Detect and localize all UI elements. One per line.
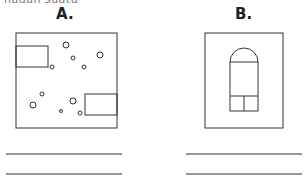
circle [71,56,75,60]
diagram-canvas [0,0,305,192]
circle [63,42,69,48]
panel-b-arch [230,48,258,62]
circle [40,92,44,96]
circle [30,102,36,108]
panel-b-figure [205,33,283,128]
panel-a-rect-bottom-right [85,94,117,115]
circle [82,65,86,69]
panel-a-figure [16,33,117,128]
circle [70,98,76,104]
panel-b-frame [205,33,283,128]
panel-a-frame [16,33,117,128]
panel-a-rect-top-left [16,46,48,67]
circle [50,65,54,69]
circle [60,110,63,113]
circle [78,111,82,115]
circle [97,52,103,58]
